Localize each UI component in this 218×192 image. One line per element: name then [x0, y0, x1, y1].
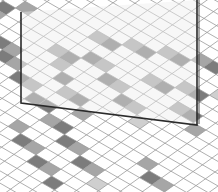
tiled-floor-scene: [0, 0, 218, 192]
glass-panel: [0, 0, 218, 192]
